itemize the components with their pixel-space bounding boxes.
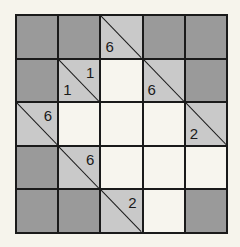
entry-cell-r2-c2[interactable]: [101, 103, 141, 145]
across-clue: 1: [86, 65, 94, 80]
entry-cell-r4-c3[interactable]: [144, 190, 184, 232]
entry-cell-r1-c2[interactable]: [101, 60, 141, 102]
entry-cell-r2-c1[interactable]: [59, 103, 99, 145]
clue-cell: 2: [186, 103, 226, 145]
clue-cell: 6: [17, 103, 57, 145]
entry-cell-r3-c3[interactable]: [144, 147, 184, 189]
clue-cell: 11: [59, 60, 99, 102]
clue-cell: 6: [101, 16, 141, 58]
down-clue: 6: [148, 82, 156, 97]
blocked-cell: [186, 60, 226, 102]
blocked-cell: [186, 16, 226, 58]
across-clue: 2: [128, 195, 136, 210]
blocked-cell: [144, 16, 184, 58]
blocked-cell: [59, 190, 99, 232]
down-clue: 1: [63, 82, 71, 97]
entry-cell-r2-c3[interactable]: [144, 103, 184, 145]
clue-cell: 6: [144, 60, 184, 102]
across-clue: 6: [44, 108, 52, 123]
across-clue: 6: [86, 152, 94, 167]
entry-cell-r3-c2[interactable]: [101, 147, 141, 189]
down-clue: 6: [105, 39, 113, 54]
blocked-cell: [17, 60, 57, 102]
blocked-cell: [59, 16, 99, 58]
down-clue: 2: [190, 126, 198, 141]
entry-cell-r3-c4[interactable]: [186, 147, 226, 189]
kakuro-grid: 61166262: [15, 14, 228, 234]
blocked-cell: [17, 190, 57, 232]
blocked-cell: [186, 190, 226, 232]
clue-cell: 2: [101, 190, 141, 232]
clue-cell: 6: [59, 147, 99, 189]
blocked-cell: [17, 147, 57, 189]
blocked-cell: [17, 16, 57, 58]
